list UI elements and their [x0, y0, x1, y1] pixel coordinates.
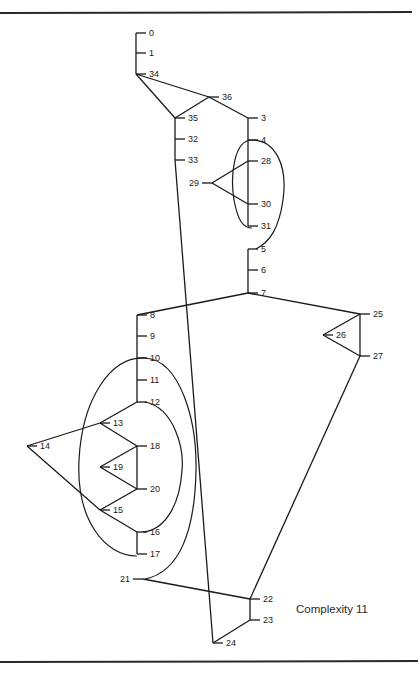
node-label-25: 25: [373, 309, 383, 319]
node-label-1: 1: [149, 48, 154, 58]
loop-12-16: [143, 402, 182, 532]
node-label-34: 34: [149, 69, 159, 79]
node-label-20: 20: [150, 484, 160, 494]
node-label-3: 3: [261, 113, 266, 123]
node-label-36: 36: [222, 92, 232, 102]
edge-21-22: [143, 579, 250, 599]
bottom-rule: [0, 661, 418, 662]
node-labels: 0134363533233428293031567252627891011121…: [40, 28, 383, 648]
node-label-28: 28: [261, 156, 271, 166]
node-label-27: 27: [373, 351, 383, 361]
node-label-17: 17: [150, 549, 160, 559]
node-label-26: 26: [336, 330, 346, 340]
top-rule: [0, 12, 412, 13]
edge-33-24: [175, 160, 213, 643]
node-label-13: 13: [113, 418, 123, 428]
node-label-32: 32: [188, 134, 198, 144]
node-label-12: 12: [150, 397, 160, 407]
edges: [27, 33, 360, 643]
edge-14-15: [27, 446, 100, 510]
node-label-9: 9: [150, 331, 155, 341]
node-label-31: 31: [261, 221, 271, 231]
node-label-4: 4: [261, 135, 266, 145]
node-label-16: 16: [150, 527, 160, 537]
node-label-21: 21: [120, 574, 130, 584]
node-label-7: 7: [261, 288, 266, 298]
node-label-29: 29: [189, 178, 199, 188]
node-label-19: 19: [113, 462, 123, 472]
node-label-14: 14: [40, 441, 50, 451]
edge-13-14: [27, 423, 100, 446]
edge-27-22: [250, 356, 360, 599]
node-label-30: 30: [261, 199, 271, 209]
node-label-0: 0: [149, 28, 154, 38]
flowgraph-diagram: 0134363533233428293031567252627891011121…: [0, 0, 420, 674]
node-label-22: 22: [263, 594, 273, 604]
node-label-24: 24: [226, 638, 236, 648]
complexity-caption: Complexity 11: [296, 603, 368, 615]
node-label-23: 23: [263, 615, 273, 625]
edge-29-30: [212, 183, 248, 204]
node-label-8: 8: [150, 310, 155, 320]
node-ticks: [27, 33, 370, 643]
node-label-35: 35: [188, 113, 198, 123]
loop-arcs: [79, 140, 284, 579]
loop-4-5: [233, 140, 284, 249]
node-label-5: 5: [261, 244, 266, 254]
node-label-11: 11: [150, 375, 159, 385]
node-label-10: 10: [150, 353, 160, 363]
node-label-18: 18: [150, 441, 160, 451]
edge-29-28: [212, 161, 248, 183]
node-label-6: 6: [261, 265, 266, 275]
node-label-33: 33: [188, 155, 198, 165]
node-label-15: 15: [113, 505, 123, 515]
